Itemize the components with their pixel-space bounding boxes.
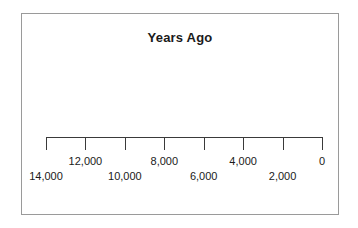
axis-tick-label: 12,000 (69, 155, 103, 167)
axis-baseline (46, 137, 322, 138)
axis-tick-label: 4,000 (229, 155, 257, 167)
axis-tick-label: 0 (319, 155, 325, 167)
axis-tick (164, 137, 165, 150)
axis-tick-label: 2,000 (269, 170, 297, 182)
axis-tick (283, 137, 284, 150)
axis-tick-label: 14,000 (29, 170, 63, 182)
axis-tick (125, 137, 126, 150)
axis-tick (243, 137, 244, 150)
axis-tick-label: 10,000 (108, 170, 142, 182)
axis-tick (46, 137, 47, 150)
axis-tick (204, 137, 205, 150)
axis-tick-label: 6,000 (190, 170, 218, 182)
axis-tick (85, 137, 86, 150)
chart-title: Years Ago (21, 30, 339, 45)
chart-figure: Years Ago 14,00012,00010,0008,0006,0004,… (0, 0, 358, 228)
axis-tick-label: 8,000 (151, 155, 179, 167)
axis-tick (322, 137, 323, 150)
